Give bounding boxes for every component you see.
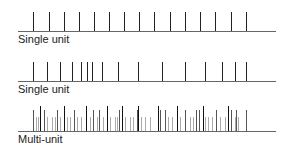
spike-train-row-1: [18, 12, 276, 32]
spike-train-row-3: [18, 106, 276, 132]
spike-train-diagram: [0, 0, 289, 153]
spike-train-row-2: [18, 62, 276, 82]
row2-label: Single unit: [18, 83, 69, 95]
row3-label: Multi-unit: [18, 133, 63, 145]
row1-label: Single unit: [18, 33, 69, 45]
